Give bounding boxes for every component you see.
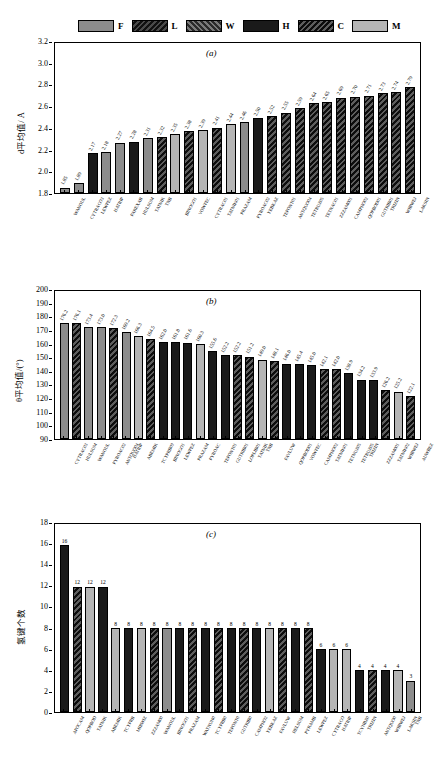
x-tick-mark	[101, 436, 102, 440]
bar-value-label: 149.0	[257, 346, 267, 359]
x-axis-label-item: TNB	[154, 194, 168, 240]
panel-b-tag: (b)	[206, 296, 217, 306]
bar-item: 2.70	[348, 43, 362, 193]
legend-label-f: F	[118, 21, 124, 31]
bar	[295, 364, 304, 439]
bar	[307, 365, 316, 439]
bar-value-label: 172.3	[109, 314, 119, 327]
bar-value-label: 8	[178, 622, 181, 627]
x-axis-label-item: WATNUN0	[186, 713, 199, 759]
x-axis-label-item: TNB	[256, 440, 268, 486]
x-tick-mark	[347, 709, 348, 713]
bar	[122, 332, 131, 439]
bar-value-label: 2.32	[157, 125, 166, 135]
x-axis-label-item: ZZZAM001	[321, 194, 335, 240]
bar-item: 1.89	[72, 43, 86, 193]
x-axis-label-item: TEPONT01	[265, 194, 279, 240]
bar-item: 8	[109, 524, 122, 712]
legend-item-l: L	[132, 20, 186, 32]
panel-c-y-tick-label: 2	[44, 688, 48, 696]
x-axis-label-item: PRAZAM	[173, 713, 186, 759]
x-tick-mark	[217, 190, 218, 194]
bar-value-label: 2.46	[239, 110, 248, 120]
x-axis-label-item: HULSUM	[69, 440, 81, 486]
x-axis-label-item: WANOUL	[57, 194, 71, 240]
panel-a-y-tick-mark	[49, 194, 52, 195]
x-axis-label-item: TCYNBZ0	[341, 713, 354, 759]
bar-value-label: 138.9	[344, 359, 354, 372]
legend-item-f: F	[78, 20, 132, 32]
bar-item: 12	[96, 524, 109, 712]
x-axis-label-item: QOPBOD	[70, 713, 83, 759]
x-tick-mark	[258, 190, 259, 194]
bar-item: 155.6	[207, 291, 219, 439]
bar-item: 152.2	[231, 291, 243, 439]
bar-item: 169.2	[120, 291, 132, 439]
x-tick-mark	[147, 190, 148, 194]
panel-a-y-tick-label: 2.0	[38, 168, 48, 176]
bar	[198, 130, 208, 193]
bar-value-label: 176.2	[59, 309, 69, 322]
panel-a-y-tick-mark	[49, 129, 52, 130]
bar	[129, 142, 139, 193]
bar	[72, 323, 81, 439]
x-tick-mark	[337, 436, 338, 440]
bar	[291, 628, 300, 712]
x-tick-mark	[163, 436, 164, 440]
bar-item: 148.1	[268, 291, 280, 439]
bar	[265, 628, 274, 712]
bar-value-label: 12	[74, 580, 80, 585]
bar-value-label: 6	[345, 643, 348, 648]
bar	[60, 545, 69, 712]
bar	[350, 97, 360, 193]
x-tick-mark	[231, 709, 232, 713]
bar	[369, 380, 378, 439]
x-tick-mark	[63, 436, 64, 440]
bar-item: 4	[353, 524, 366, 712]
x-axis-label-item: LEWPEZ	[85, 194, 99, 240]
bar-value-label: 8	[127, 622, 130, 627]
legend-swatch-c	[298, 20, 334, 32]
x-tick-mark	[411, 190, 412, 194]
bar	[233, 355, 242, 439]
bar	[101, 152, 111, 193]
panel-b-y-tick-label: 200	[36, 286, 48, 294]
bar	[124, 628, 133, 712]
panel-a-y-tick-label: 2.4	[38, 125, 48, 133]
bar-item: 176.2	[58, 291, 70, 439]
panel-c-y-tick-mark	[49, 565, 52, 566]
bar-value-label: 161.8	[171, 328, 181, 341]
x-axis-label-item: ANTQUO04	[279, 194, 293, 240]
bar-item: 2.41	[210, 43, 224, 193]
bar-item: 126.2	[380, 291, 392, 439]
legend-item-h: H	[243, 20, 298, 32]
bar-value-label: 161.6	[183, 329, 193, 342]
bar-value-label: 6	[320, 643, 323, 648]
x-tick-mark	[115, 709, 116, 713]
x-tick-mark	[113, 436, 114, 440]
x-axis-label-item: HULSUM	[126, 194, 140, 240]
bar-item: 173.4	[83, 291, 95, 439]
bar-item: 2.44	[224, 43, 238, 193]
x-tick-mark	[295, 709, 296, 713]
x-tick-mark	[362, 436, 363, 440]
bar-value-label: 176.1	[72, 309, 82, 322]
bar	[212, 128, 222, 193]
x-tick-mark	[138, 436, 139, 440]
x-tick-mark	[370, 190, 371, 194]
bar	[196, 344, 205, 439]
panel-b-y-tick-label: 90	[40, 436, 48, 444]
bar	[253, 118, 263, 193]
x-tick-mark	[189, 190, 190, 194]
panel-c-y-tick-label: 16	[40, 540, 48, 548]
x-axis-label-item: LOPLIB01	[231, 440, 243, 486]
panel-c-y-tick-label: 4	[44, 667, 48, 675]
x-axis-label-item: WIBWEJ	[393, 440, 405, 486]
bar-value-label: 134.2	[356, 365, 366, 378]
bar	[146, 339, 155, 439]
panel-a: d平均值/ Å 1.82.02.22.42.62.83.03.2 1.851.8…	[8, 42, 421, 260]
panel-b-y-tick-mark	[49, 331, 52, 332]
x-axis-label-item: GUTRIB01	[363, 194, 377, 240]
panel-b-y-tick-label: 110	[36, 409, 48, 417]
